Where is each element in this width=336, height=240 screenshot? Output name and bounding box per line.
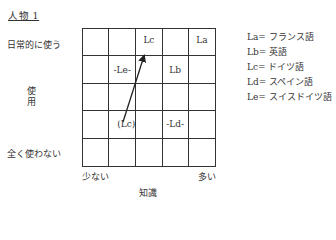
- legend-item-lb: Lb= 英語: [247, 45, 332, 60]
- legend-item-ld: Ld= スペイン語: [247, 75, 332, 90]
- legend: La= フランス語 Lb= 英語 Lc= ドイツ語 Ld= スペイン語 Le= …: [247, 30, 332, 105]
- x-axis-right-label: 多い: [198, 170, 216, 183]
- x-axis-left-label: 少ない: [82, 170, 109, 183]
- legend-item-lc: Lc= ドイツ語: [247, 60, 332, 75]
- x-axis-label: 知識: [139, 186, 157, 199]
- legend-item-la: La= フランス語: [247, 30, 332, 45]
- legend-item-le: Le= スイスドイツ語: [247, 90, 332, 105]
